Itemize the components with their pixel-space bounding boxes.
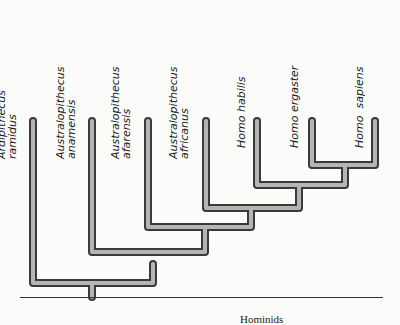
taxon-label-homo-sapiens: Homo sapiens	[332, 67, 376, 148]
taxon-label-au-afarensis: Australopithecusafarensis	[88, 67, 143, 159]
taxon-label-ardipithecus: Ardipithecusramidus	[0, 90, 29, 159]
taxon-label-au-africanus: Australopithecusafricanus	[146, 67, 201, 159]
taxon-label-au-anamensis: Australopithecusanamensis	[33, 67, 88, 159]
taxon-label-homo-habilis: Homo habilis	[214, 76, 258, 148]
baseline-divider	[20, 297, 383, 298]
axis-label: Hominids	[240, 313, 283, 325]
cladogram-tree	[0, 0, 400, 325]
taxon-label-homo-ergaster: Homo ergaster	[267, 66, 311, 148]
